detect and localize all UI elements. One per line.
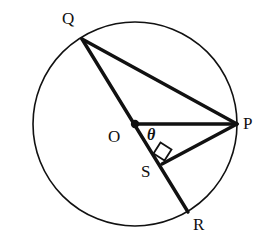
- label-point-o: O: [108, 128, 120, 145]
- segment-QP: [82, 39, 237, 124]
- segment-SP: [162, 124, 237, 164]
- circle-geometry-figure: Q P O S R θ: [0, 0, 261, 244]
- label-point-q: Q: [62, 10, 74, 27]
- label-point-r: R: [193, 216, 204, 233]
- label-point-s: S: [141, 163, 150, 180]
- geometry-canvas: [0, 0, 261, 244]
- label-angle-theta: θ: [147, 127, 155, 143]
- center-point-dot: [131, 120, 139, 128]
- label-point-p: P: [243, 115, 252, 132]
